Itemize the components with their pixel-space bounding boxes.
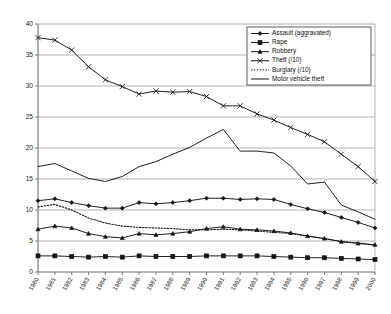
data-point-marker <box>103 77 108 82</box>
data-point-marker <box>120 236 124 240</box>
x-tick-label: 1981 <box>44 276 57 292</box>
y-tick-label: 0 <box>29 268 33 275</box>
data-point-marker <box>373 226 377 230</box>
data-point-marker <box>103 206 107 210</box>
data-point-marker <box>255 254 259 258</box>
data-point-marker <box>322 210 326 214</box>
x-tick-label: 1991 <box>212 276 225 292</box>
legend-label: Theft (/10) <box>272 56 301 64</box>
data-point-marker <box>188 199 192 203</box>
x-tick-label: 1985 <box>111 276 124 292</box>
data-point-marker <box>188 255 192 259</box>
data-point-marker <box>87 204 91 208</box>
data-point-marker <box>339 152 344 157</box>
x-axis-ticks: 1980198119821983198419851986198719881989… <box>27 272 377 291</box>
x-tick-label: 1983 <box>77 276 90 292</box>
data-point-marker <box>373 258 377 262</box>
x-tick-label: 1980 <box>27 276 40 292</box>
legend-label: Motor vehicle theft <box>272 75 324 82</box>
data-point-marker <box>356 257 360 261</box>
data-point-marker <box>70 201 74 205</box>
y-tick-label: 30 <box>26 82 34 89</box>
data-point-marker <box>339 256 343 260</box>
x-tick-label: 1996 <box>297 276 310 292</box>
data-point-marker <box>137 232 141 236</box>
data-point-marker <box>238 254 242 258</box>
data-point-marker <box>36 254 40 258</box>
y-tick-label: 5 <box>29 237 33 244</box>
data-point-marker <box>339 215 343 219</box>
x-tick-label: 1990 <box>195 276 208 292</box>
y-tick-label: 10 <box>26 206 34 213</box>
data-point-marker <box>254 111 259 116</box>
data-point-marker <box>69 47 74 52</box>
x-tick-label: 1984 <box>94 276 107 292</box>
data-point-marker <box>322 256 326 260</box>
data-point-marker <box>221 225 225 229</box>
data-point-marker <box>221 196 225 200</box>
data-point-marker <box>171 201 175 205</box>
x-tick-label: 1993 <box>246 276 259 292</box>
y-tick-label: 25 <box>26 113 34 120</box>
data-point-marker <box>36 227 40 231</box>
data-point-marker <box>221 254 225 258</box>
series-robbery <box>36 224 377 246</box>
legend-label: Robbery <box>272 47 297 55</box>
data-point-marker <box>288 125 293 130</box>
x-tick-label: 1989 <box>179 276 192 292</box>
data-point-marker <box>120 84 125 89</box>
data-point-marker <box>137 201 141 205</box>
x-tick-label: 1994 <box>263 276 276 292</box>
data-point-marker <box>137 254 141 258</box>
y-tick-label: 15 <box>26 175 34 182</box>
data-point-marker <box>103 255 107 259</box>
data-point-marker <box>87 232 91 236</box>
legend-label: Rape <box>272 38 288 46</box>
data-point-marker <box>154 255 158 259</box>
x-tick-label: 1992 <box>229 276 242 292</box>
x-tick-label: 1998 <box>330 276 343 292</box>
data-point-marker <box>272 255 276 259</box>
data-point-marker <box>36 199 40 203</box>
data-point-marker <box>171 255 175 259</box>
x-tick-label: 1987 <box>145 276 158 292</box>
data-point-marker <box>205 196 209 200</box>
data-point-marker <box>356 164 361 169</box>
series-rape <box>36 254 377 262</box>
x-tick-label: 1982 <box>61 276 74 292</box>
data-point-marker <box>53 224 57 228</box>
data-point-marker <box>238 197 242 201</box>
x-tick-label: 1997 <box>313 276 326 292</box>
x-tick-label: 1986 <box>128 276 141 292</box>
data-point-marker <box>154 202 158 206</box>
data-point-marker <box>289 255 293 259</box>
x-tick-label: 1995 <box>280 276 293 292</box>
crime-trends-chart: 0510152025303540 19801981198219831984198… <box>0 0 391 314</box>
y-tick-label: 40 <box>26 20 34 27</box>
data-point-marker <box>86 64 91 69</box>
x-tick-label: 1988 <box>162 276 175 292</box>
data-point-marker <box>120 255 124 259</box>
data-point-marker <box>258 41 262 45</box>
y-axis-ticks: 0510152025303540 <box>26 20 38 275</box>
data-point-marker <box>87 255 91 259</box>
series-assault-aggravated <box>36 196 377 230</box>
y-tick-label: 20 <box>26 144 34 151</box>
data-point-marker <box>289 202 293 206</box>
y-tick-label: 35 <box>26 51 34 58</box>
data-point-marker <box>255 197 259 201</box>
data-point-marker <box>154 233 158 237</box>
data-point-marker <box>120 206 124 210</box>
data-point-marker <box>171 232 175 236</box>
legend-label: Assault (aggravated) <box>272 29 331 37</box>
data-point-marker <box>70 226 74 230</box>
chart-legend: Assault (aggravated)RapeRobberyTheft (/1… <box>247 27 371 85</box>
data-point-marker <box>305 132 310 137</box>
data-point-marker <box>356 220 360 224</box>
x-tick-label: 2000 <box>364 276 377 292</box>
data-point-marker <box>70 255 74 259</box>
data-point-marker <box>53 254 57 258</box>
data-point-marker <box>271 118 276 123</box>
data-point-marker <box>322 139 327 144</box>
data-point-marker <box>272 197 276 201</box>
